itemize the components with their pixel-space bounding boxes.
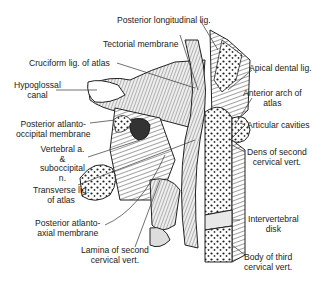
label-lamina-second-cervical: Lamina of second cervical vert.: [81, 246, 149, 265]
label-intervertebral-disk: Intervertebral disk: [248, 215, 299, 234]
label-anterior-arch-atlas: Anterior arch of atlas: [243, 89, 302, 108]
anatomy-figure: Posterior longitudinal lig. Tectorial me…: [0, 0, 322, 281]
label-posterior-atlanto-occipital-membrane: Posterior atlanto- occipital membrane: [16, 120, 91, 139]
label-body-third-cervical: Body of third cervical vert.: [244, 253, 292, 272]
label-apical-dental-lig: Apical dental lig.: [249, 64, 312, 74]
label-hypoglossal-canal: Hypoglossal canal: [14, 81, 61, 100]
label-posterior-atlanto-axial-membrane: Posterior atlanto- axial membrane: [35, 219, 100, 238]
label-tectorial-membrane: Tectorial membrane: [103, 40, 178, 50]
label-articular-cavities: Articular cavities: [247, 121, 310, 131]
label-posterior-longitudinal-lig: Posterior longitudinal lig.: [117, 16, 211, 26]
label-cruciform-lig: Cruciform lig. of atlas: [29, 59, 110, 69]
label-transverse-lig-atlas: Transverse lig. of atlas: [33, 186, 89, 205]
label-vertebral-artery-suboccipital-nerve: Vertebral a. & suboccipital n.: [40, 145, 85, 183]
label-dens-second-cervical: Dens of second cervical vert.: [247, 148, 307, 167]
